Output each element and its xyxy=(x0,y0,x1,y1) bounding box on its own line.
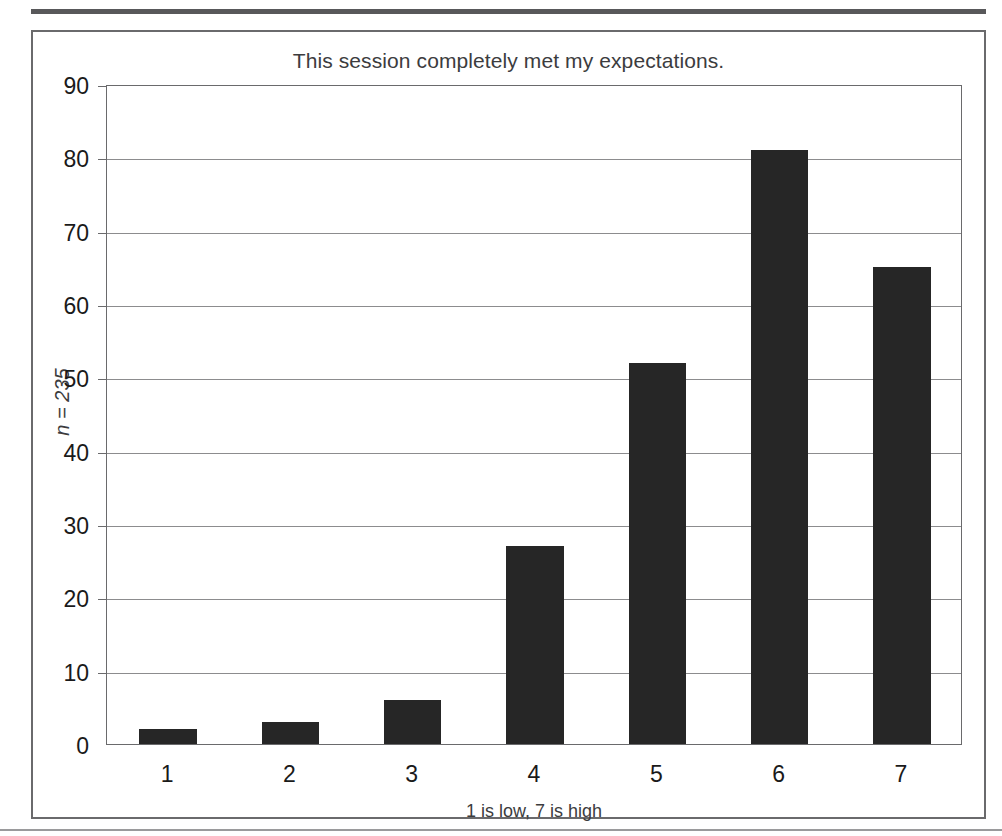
bar-5 xyxy=(629,363,686,744)
y-tick-mark xyxy=(98,673,107,674)
bar-6 xyxy=(751,150,808,744)
y-tick-label: 90 xyxy=(37,73,89,100)
bar-4 xyxy=(506,546,563,744)
chart-page: { "figure": { "title": "This session com… xyxy=(0,0,1002,836)
y-tick-mark xyxy=(98,453,107,454)
y-tick-label: 70 xyxy=(37,219,89,246)
bar-7 xyxy=(873,267,930,744)
y-tick-label: 0 xyxy=(37,733,89,760)
x-tick-label-7: 7 xyxy=(894,761,907,788)
y-tick-mark xyxy=(98,306,107,307)
y-tick-label: 60 xyxy=(37,293,89,320)
y-tick-mark xyxy=(98,526,107,527)
chart-title: This session completely met my expectati… xyxy=(33,49,984,73)
bar-2 xyxy=(262,722,319,744)
plot-area: 0102030405060708090 xyxy=(106,85,962,745)
x-tick-label-4: 4 xyxy=(528,761,541,788)
y-tick-label: 20 xyxy=(37,586,89,613)
y-tick-label: 80 xyxy=(37,146,89,173)
x-axis-title: 1 is low, 7 is high xyxy=(106,801,962,822)
y-tick-label: 40 xyxy=(37,439,89,466)
y-tick-label: 30 xyxy=(37,513,89,540)
x-tick-label-1: 1 xyxy=(161,761,174,788)
page-rule-bottom xyxy=(0,829,1002,831)
x-tick-label-5: 5 xyxy=(650,761,663,788)
y-tick-mark xyxy=(98,86,107,87)
page-rule-top xyxy=(31,9,986,14)
x-tick-label-3: 3 xyxy=(405,761,418,788)
x-tick-label-2: 2 xyxy=(283,761,296,788)
y-tick-mark xyxy=(98,159,107,160)
y-tick-label: 10 xyxy=(37,659,89,686)
bars-layer xyxy=(107,86,961,744)
y-tick-mark xyxy=(98,233,107,234)
y-tick-mark xyxy=(98,599,107,600)
bar-3 xyxy=(384,700,441,744)
y-tick-mark xyxy=(98,379,107,380)
x-tick-label-6: 6 xyxy=(772,761,785,788)
y-tick-label: 50 xyxy=(37,366,89,393)
figure-frame: This session completely met my expectati… xyxy=(31,30,986,819)
bar-1 xyxy=(139,729,196,744)
